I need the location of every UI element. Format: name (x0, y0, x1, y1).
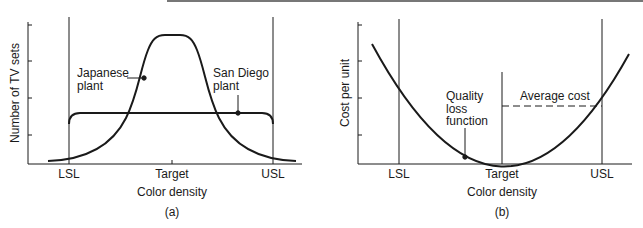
san-diego-plant-curve (69, 113, 273, 124)
quality-loss-curve (372, 44, 629, 167)
japanese-plant-curve (48, 35, 296, 161)
label-san-diego-line2: plant (213, 79, 240, 93)
tick-label-lsl: LSL (58, 167, 80, 181)
tick-label-target: Target (155, 167, 189, 181)
y-axis-label: Number of TV sets (8, 43, 22, 143)
san-diego-marker-dot (236, 111, 240, 115)
label-japanese-line2: plant (77, 79, 104, 93)
label-san-diego-line1: San Diego (213, 66, 269, 80)
label-average-cost: Average cost (520, 89, 590, 103)
y-axis-label: Cost per unit (338, 58, 352, 127)
tick-label-target: Target (485, 167, 519, 181)
label-japanese-line1: Japanese (77, 66, 129, 80)
panel-b-text: Cost per unit Quality loss function Aver… (338, 58, 614, 219)
panel-caption-a: (a) (165, 205, 180, 219)
x-axis-label: Color density (467, 185, 537, 199)
qlf-marker-dot (463, 155, 467, 159)
tick-label-lsl: LSL (388, 167, 410, 181)
panel-b (358, 19, 632, 167)
label-qlf-line3: function (446, 114, 488, 128)
x-axis-label: Color density (137, 185, 207, 199)
panel-caption-b: (b) (495, 205, 510, 219)
tick-label-usl: USL (261, 167, 285, 181)
tick-label-usl: USL (590, 167, 614, 181)
panel-a-text: Number of TV sets Japanese plant San Die… (8, 43, 285, 219)
figure: Number of TV sets Japanese plant San Die… (0, 0, 643, 228)
panel-a (28, 17, 302, 164)
japanese-marker-dot (142, 76, 146, 80)
label-qlf-line1: Quality (446, 89, 483, 103)
